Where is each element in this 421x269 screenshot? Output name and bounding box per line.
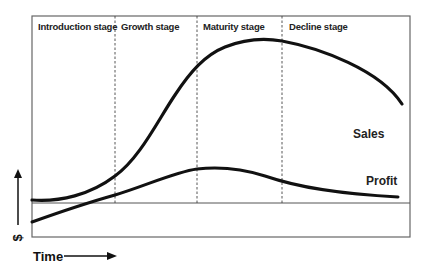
y-axis-arrow-head-icon: [14, 169, 22, 178]
sales-label: Sales: [353, 127, 385, 141]
stage-label-decline: Decline stage: [289, 21, 348, 32]
profit-label: Profit: [366, 174, 397, 188]
x-axis-label: Time: [33, 249, 63, 264]
stage-label-introduction: Introduction stage: [38, 21, 117, 32]
sales-curve: [32, 39, 402, 200]
profit-curve: [32, 168, 398, 222]
x-axis-arrow-head-icon: [107, 252, 117, 260]
stage-label-maturity: Maturity stage: [203, 21, 265, 32]
stage-label-growth: Growth stage: [121, 21, 179, 32]
y-axis-label: $: [10, 234, 25, 242]
product-life-cycle-diagram: Introduction stage Growth stage Maturity…: [0, 0, 421, 269]
